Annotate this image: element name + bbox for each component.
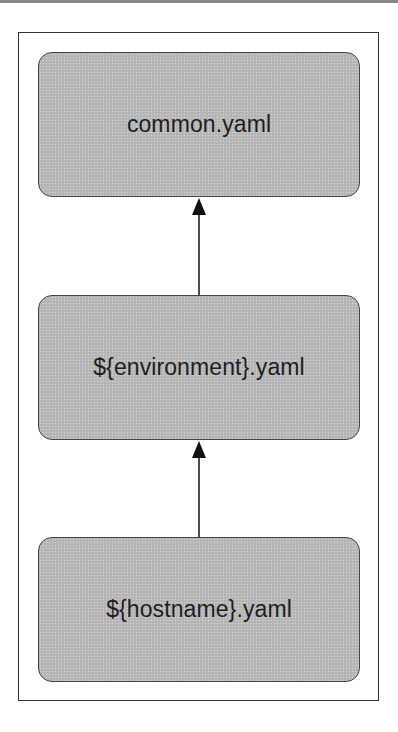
arrowhead-icon <box>192 441 206 458</box>
arrows-layer <box>0 0 398 732</box>
arrow-hostname-to-environment <box>192 441 206 537</box>
arrowhead-icon <box>192 198 206 215</box>
arrow-environment-to-common <box>192 198 206 295</box>
